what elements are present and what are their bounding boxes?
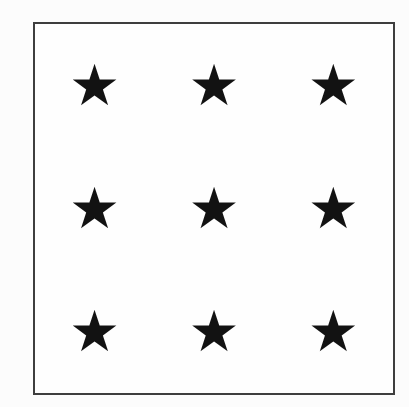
figure-canvas: ★ ★ ★ ★ ★ ★ ★ ★ ★ xyxy=(0,0,409,407)
star-icon: ★ xyxy=(188,303,239,360)
grid-cell-r2c2: ★ xyxy=(154,147,273,270)
grid-cell-r1c2: ★ xyxy=(154,24,273,147)
grid-cell-r2c1: ★ xyxy=(35,147,154,270)
grid-cell-r1c3: ★ xyxy=(274,24,393,147)
grid-cell-r1c1: ★ xyxy=(35,24,154,147)
star-icon: ★ xyxy=(308,57,359,114)
star-grid-box: ★ ★ ★ ★ ★ ★ ★ ★ ★ xyxy=(33,22,395,395)
grid-cell-r3c2: ★ xyxy=(154,270,273,393)
star-icon: ★ xyxy=(308,303,359,360)
grid-cell-r3c1: ★ xyxy=(35,270,154,393)
star-icon: ★ xyxy=(188,57,239,114)
star-icon: ★ xyxy=(188,180,239,237)
star-icon: ★ xyxy=(69,180,120,237)
grid-cell-r2c3: ★ xyxy=(274,147,393,270)
star-icon: ★ xyxy=(69,57,120,114)
grid-cell-r3c3: ★ xyxy=(274,270,393,393)
star-icon: ★ xyxy=(69,303,120,360)
star-icon: ★ xyxy=(308,180,359,237)
